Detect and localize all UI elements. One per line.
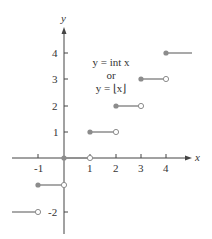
y-axis-label: y: [60, 12, 66, 24]
x-tick-label: 2: [113, 162, 119, 174]
y-tick-label: -2: [48, 206, 57, 218]
y-tick-label: 3: [52, 73, 58, 85]
open-dot-icon: [163, 76, 168, 81]
x-axis-arrow-icon: [185, 156, 192, 161]
y-axis: y 4 3 2 1 -2: [48, 12, 68, 234]
x-tick-label: 1: [87, 162, 93, 174]
function-label: y = int x or y = ⌊x⌋: [92, 56, 130, 94]
closed-dot-icon: [138, 76, 143, 81]
floor-function-graph: x -1 1 2 3 4 y 4 3 2 1 -2: [0, 0, 212, 239]
x-tick-label: -1: [34, 162, 43, 174]
open-dot-icon: [35, 209, 40, 214]
open-dot-icon: [61, 182, 66, 187]
function-label-line3: y = ⌊x⌋: [96, 82, 127, 94]
x-tick-label: 3: [138, 162, 144, 174]
x-tick-label: 4: [163, 162, 169, 174]
closed-dot-icon: [61, 155, 66, 160]
function-label-line1: y = int x: [92, 56, 130, 68]
y-axis-arrow-icon: [62, 27, 67, 34]
closed-dot-icon: [87, 129, 92, 134]
x-axis-label: x: [194, 151, 200, 163]
x-axis: x -1 1 2 3 4: [12, 151, 200, 174]
y-tick-label: 2: [52, 100, 58, 112]
open-dot-icon: [113, 129, 118, 134]
open-dot-icon: [138, 103, 143, 108]
closed-dot-icon: [113, 103, 118, 108]
y-tick-label: 1: [53, 126, 59, 138]
open-endpoints: [35, 76, 168, 214]
y-tick-label: 4: [52, 47, 58, 59]
open-dot-icon: [87, 155, 92, 160]
function-label-line2: or: [106, 69, 116, 81]
closed-dot-icon: [35, 182, 40, 187]
closed-endpoints: [35, 50, 168, 187]
closed-dot-icon: [163, 50, 168, 55]
